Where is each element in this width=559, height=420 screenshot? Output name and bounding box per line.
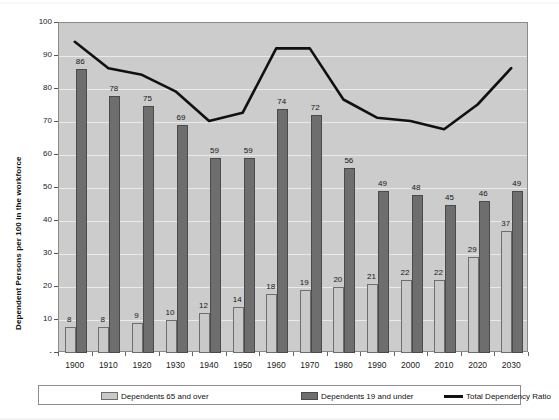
bar-dependents-65-and-over bbox=[199, 313, 210, 353]
gridline bbox=[59, 56, 527, 57]
bar-dependents-19-and-under bbox=[445, 205, 456, 354]
bar-value-label: 46 bbox=[470, 190, 496, 198]
bar-value-label: 72 bbox=[302, 104, 328, 112]
bar-value-label: 86 bbox=[67, 58, 93, 66]
bar-dependents-19-and-under bbox=[210, 158, 221, 353]
bar-value-label: 14 bbox=[224, 296, 250, 304]
bar-value-label: 19 bbox=[291, 279, 317, 287]
x-axis-tick-mark bbox=[159, 352, 160, 356]
bar-dependents-65-and-over bbox=[468, 257, 479, 353]
bar-dependents-65-and-over bbox=[434, 280, 445, 353]
y-axis-tick-label: 60 bbox=[26, 150, 52, 158]
x-axis-tick-mark bbox=[293, 352, 294, 356]
bar-dependents-65-and-over bbox=[300, 290, 311, 353]
bar-value-label: 45 bbox=[437, 194, 463, 202]
x-axis-tick-mark bbox=[528, 352, 529, 356]
x-axis-tick-mark bbox=[327, 352, 328, 356]
bar-dependents-65-and-over bbox=[401, 280, 412, 353]
gridline bbox=[59, 155, 527, 156]
plot-area bbox=[58, 22, 528, 352]
bar-dependents-65-and-over bbox=[266, 294, 277, 353]
y-axis-tick-label: 20 bbox=[26, 282, 52, 290]
bar-value-label: 59 bbox=[235, 147, 261, 155]
y-axis-tick-label: 10 bbox=[26, 315, 52, 323]
bar-dependents-19-and-under bbox=[177, 125, 188, 353]
x-axis-tick-mark bbox=[360, 352, 361, 356]
y-axis-tick-label: 90 bbox=[26, 51, 52, 59]
x-axis-tick-mark bbox=[92, 352, 93, 356]
bar-dependents-19-and-under bbox=[109, 96, 120, 353]
dependency-ratio-chart: Dependent Persons per 100 in the workfor… bbox=[0, 0, 559, 420]
bar-value-label: 12 bbox=[191, 302, 217, 310]
bar-dependents-65-and-over bbox=[166, 320, 177, 353]
bar-dependents-19-and-under bbox=[344, 168, 355, 353]
bar-dependents-19-and-under bbox=[479, 201, 490, 353]
bar-value-label: 59 bbox=[202, 147, 228, 155]
bar-dependents-65-and-over bbox=[132, 323, 143, 353]
gridline bbox=[59, 89, 527, 90]
bar-dependents-19-and-under bbox=[311, 115, 322, 353]
bar-value-label: 21 bbox=[358, 273, 384, 281]
bar-value-label: 48 bbox=[403, 184, 429, 192]
x-axis-tick-label: 2030 bbox=[491, 361, 531, 370]
bar-value-label: 10 bbox=[157, 309, 183, 317]
bar-dependents-65-and-over bbox=[333, 287, 344, 353]
bar-dependents-19-and-under bbox=[244, 158, 255, 353]
x-axis-tick-mark bbox=[125, 352, 126, 356]
y-axis-tick-label: 80 bbox=[26, 84, 52, 92]
x-axis-tick-mark bbox=[58, 352, 59, 356]
gridline bbox=[59, 221, 527, 222]
x-axis-tick-mark bbox=[461, 352, 462, 356]
black-line-swatch-icon bbox=[444, 395, 463, 398]
legend-label: Total Dependency Ratio bbox=[466, 392, 551, 401]
bar-value-label: 75 bbox=[134, 95, 160, 103]
bar-value-label: 9 bbox=[123, 312, 149, 320]
bar-value-label: 49 bbox=[504, 180, 530, 188]
legend: Dependents 65 and over Dependents 19 and… bbox=[38, 385, 521, 405]
x-axis-tick-mark bbox=[259, 352, 260, 356]
bar-value-label: 37 bbox=[493, 220, 519, 228]
x-axis-tick-mark bbox=[226, 352, 227, 356]
legend-item-dependents-19-and-under: Dependents 19 and under bbox=[301, 390, 414, 402]
bar-dependents-65-and-over bbox=[65, 327, 76, 353]
bar-value-label: 29 bbox=[459, 246, 485, 254]
x-axis-tick-mark bbox=[427, 352, 428, 356]
y-axis-tick-label: - bbox=[26, 348, 52, 356]
light-bar-swatch-icon bbox=[101, 392, 118, 400]
legend-label: Dependents 65 and over bbox=[121, 392, 209, 401]
y-axis-tick-label: 100 bbox=[26, 18, 52, 26]
bar-value-label: 78 bbox=[101, 85, 127, 93]
bar-value-label: 56 bbox=[336, 157, 362, 165]
bar-dependents-65-and-over bbox=[233, 307, 244, 353]
bar-dependents-19-and-under bbox=[277, 109, 288, 353]
bar-dependents-65-and-over bbox=[501, 231, 512, 353]
legend-label: Dependents 19 and under bbox=[321, 392, 414, 401]
bar-dependents-65-and-over bbox=[98, 327, 109, 353]
x-axis-tick-mark bbox=[192, 352, 193, 356]
legend-item-total-dependency-ratio: Total Dependency Ratio bbox=[444, 390, 551, 402]
bar-value-label: 22 bbox=[426, 269, 452, 277]
bar-value-label: 49 bbox=[369, 180, 395, 188]
gridline bbox=[59, 188, 527, 189]
bar-value-label: 18 bbox=[258, 283, 284, 291]
x-axis-tick-mark bbox=[394, 352, 395, 356]
scan-artifact-top bbox=[0, 0, 559, 4]
gridline bbox=[59, 122, 527, 123]
bar-value-label: 8 bbox=[56, 316, 82, 324]
y-axis-tick-label: 40 bbox=[26, 216, 52, 224]
bar-value-label: 74 bbox=[269, 98, 295, 106]
dark-bar-swatch-icon bbox=[301, 392, 318, 400]
bar-value-label: 8 bbox=[90, 316, 116, 324]
legend-item-dependents-65-and-over: Dependents 65 and over bbox=[101, 390, 209, 402]
bar-value-label: 22 bbox=[392, 269, 418, 277]
gridline bbox=[59, 254, 527, 255]
y-axis-tick-label: 70 bbox=[26, 117, 52, 125]
bar-dependents-19-and-under bbox=[512, 191, 523, 353]
bar-dependents-19-and-under bbox=[76, 69, 87, 353]
x-axis-tick-mark bbox=[494, 352, 495, 356]
y-axis-tick-label: 30 bbox=[26, 249, 52, 257]
bar-value-label: 20 bbox=[325, 276, 351, 284]
y-axis-tick-label: 50 bbox=[26, 183, 52, 191]
y-axis-title: Dependent Persons per 100 in the workfor… bbox=[14, 156, 23, 330]
bar-dependents-65-and-over bbox=[367, 284, 378, 353]
